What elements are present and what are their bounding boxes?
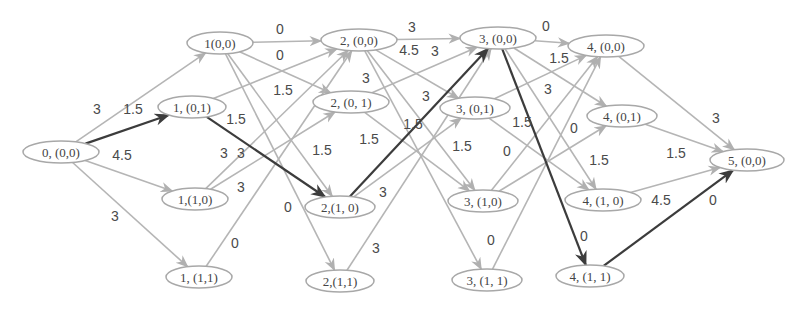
node-label: 4, (1, 0) (582, 193, 623, 208)
node-label: 3, (1,0) (464, 194, 502, 209)
edge-weight-label: 1.5 (273, 82, 293, 98)
edge-n2_00-to-n3_00 (397, 39, 460, 40)
edge-weight-label: 1.5 (452, 138, 472, 154)
graph-node: 1,(1,0) (162, 188, 228, 210)
graph-node: 3, (0,0) (460, 27, 536, 49)
graph-node: 2,(1,1) (306, 270, 374, 292)
edge-weight-label: 0 (570, 120, 578, 136)
highlighted-path-layer (86, 49, 734, 266)
edge-weight-label: 3 (93, 101, 101, 117)
graph-node: 2,(1, 0) (305, 196, 375, 218)
node-label: 1, (1,1) (180, 270, 218, 285)
edge-weight-label: 1.5 (226, 111, 246, 127)
edge-weight-label: 3 (712, 110, 720, 126)
graph-canvas: 0, (0,0)1(0,0)1, (0,1)1,(1,0)1, (1,1)2, … (0, 0, 811, 313)
edge-weight-label: 3 (111, 208, 119, 224)
edge-weight-label: 0 (231, 235, 239, 251)
graph-node: 1, (1,1) (166, 266, 232, 288)
graph-node: 5, (0,0) (710, 149, 784, 171)
edge-n0_00-to-n1_11 (73, 163, 188, 267)
edge-weight-label: 1.5 (359, 131, 379, 147)
node-label: 5, (0,0) (728, 153, 766, 168)
node-label: 2,(1,1) (323, 274, 358, 289)
node-label: 0, (0,0) (42, 145, 80, 160)
node-label: 2, (0,0) (340, 33, 378, 48)
edge-weight-label: 1.5 (666, 145, 686, 161)
edge-n3_10-to-n4_00 (492, 57, 598, 191)
node-label: 4, (0,0) (587, 39, 625, 54)
edge-weight-label: 0 (487, 232, 495, 248)
edge-weight-label: 3 (379, 184, 387, 200)
graph-node: 1, (0,1) (158, 96, 226, 118)
edge-weight-label: 0 (580, 228, 588, 244)
edge-weight-label: 1.5 (549, 50, 569, 66)
edge-weight-label: 0 (709, 192, 717, 208)
edge-weight-label: 3 (372, 240, 380, 256)
edge-weight-label: 1.5 (589, 152, 609, 168)
node-label: 3, (0,1) (456, 101, 494, 116)
graph-node: 3, (1,0) (448, 190, 518, 212)
edge-n0_00-to-n1_01 (86, 115, 169, 144)
edge-weight-label: 3 (237, 145, 245, 161)
edge-weight-label: 3 (422, 88, 430, 104)
node-label: 4, (1, 1) (569, 269, 610, 284)
graph-node: 0, (0,0) (23, 141, 99, 163)
layered-graph-diagram: 0, (0,0)1(0,0)1, (0,1)1,(1,0)1, (1,1)2, … (0, 0, 811, 313)
edge-weight-label: 4.5 (651, 192, 671, 208)
edge-weight-label: 1.5 (312, 142, 332, 158)
edge-weight-label: 0 (276, 21, 284, 37)
edge-weight-label: 4.5 (112, 147, 132, 163)
node-label: 1(0,0) (204, 36, 235, 51)
node-label: 1,(1,0) (178, 192, 213, 207)
graph-node: 4, (1, 1) (556, 265, 624, 287)
edge-weight-label: 1.5 (123, 101, 143, 117)
edge-weight-label: 0 (276, 47, 284, 63)
graph-node: 4, (1, 0) (565, 189, 641, 211)
node-label: 3, (1, 1) (466, 273, 507, 288)
node-label: 4, (0,1) (603, 109, 641, 124)
edge-weight-label: 3 (237, 179, 245, 195)
edge-n2_00-to-n3_11 (365, 51, 481, 269)
graph-node: 4, (0,1) (587, 105, 657, 127)
edge-n1_00-to-n2_00 (253, 41, 321, 43)
edge-weight-label: 0 (542, 18, 550, 34)
graph-node: 3, (1, 1) (452, 269, 522, 291)
edge-weight-label: 3 (544, 81, 552, 97)
edge-weight-label: 1.5 (403, 116, 423, 132)
edge-weight-label: 3 (362, 70, 370, 86)
node-label: 1, (0,1) (173, 100, 211, 115)
edge-n3_00-to-n4_00 (535, 41, 569, 44)
graph-node: 2, (0,0) (321, 29, 397, 51)
edge-weight-label: 0 (503, 143, 511, 159)
graph-node: 2, (0, 1) (313, 91, 389, 113)
node-label: 2, (0, 1) (330, 95, 371, 110)
edge-weight-label: 0 (284, 199, 292, 215)
node-label: 2,(1, 0) (321, 200, 359, 215)
edge-weight-label: 3 (220, 145, 228, 161)
graph-node: 4, (0,0) (568, 35, 644, 57)
node-label: 3, (0,0) (479, 31, 517, 46)
graph-node: 1(0,0) (187, 32, 253, 54)
edge-weight-label: 4.5 (399, 42, 419, 58)
edge-weight-label: 3 (431, 43, 439, 59)
edge-weight-label: 1.5 (512, 114, 532, 130)
edge-weight-label: 3 (408, 19, 416, 35)
edge-n4_11-to-n5_00 (604, 170, 734, 266)
edges-layer (73, 39, 735, 271)
edge-n2_01-to-n3_00 (372, 47, 477, 93)
graph-node: 3, (0,1) (440, 97, 510, 119)
